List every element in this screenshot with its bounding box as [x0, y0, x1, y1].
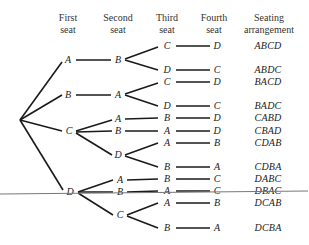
overlay-line [0, 0, 309, 245]
